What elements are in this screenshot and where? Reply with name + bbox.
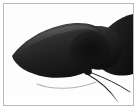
lower-fade — [4, 90, 133, 105]
photograph — [4, 4, 133, 105]
image-thumbnail[interactable] — [0, 0, 137, 112]
leg-joint — [84, 69, 92, 75]
wing-overlap-shadow — [70, 31, 110, 71]
photo-artwork — [4, 4, 133, 105]
